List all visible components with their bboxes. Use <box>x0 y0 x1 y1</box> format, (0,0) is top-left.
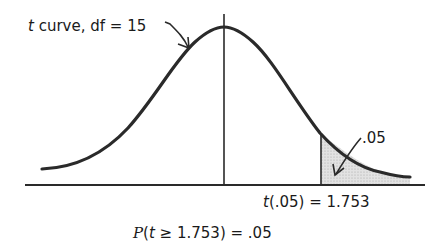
t-curve <box>42 27 410 177</box>
curve-label: t curve, df = 15 <box>28 17 146 35</box>
tail-area-label: .05 <box>362 129 386 147</box>
critical-label-text: (.05) = 1.753 <box>269 193 370 211</box>
t-distribution-diagram: t curve, df = 15 .05 t(.05) = 1.753 P(t … <box>0 0 441 243</box>
curve-label-text: curve, df = 15 <box>34 17 146 35</box>
critical-value-label: t(.05) = 1.753 <box>263 193 370 211</box>
curve-label-arrow-icon <box>165 22 189 48</box>
probability-statement: P(t ≥ 1.753) = .05 <box>132 224 272 242</box>
probability-text: ≥ 1.753) = .05 <box>155 224 272 242</box>
